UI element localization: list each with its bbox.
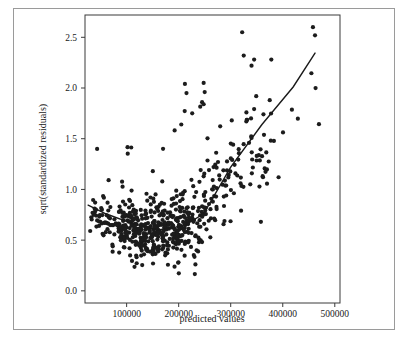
data-point	[155, 207, 159, 211]
data-point	[183, 242, 187, 246]
data-point	[215, 207, 219, 211]
data-point	[192, 195, 196, 199]
data-point	[263, 170, 267, 174]
data-point	[134, 255, 138, 259]
data-point	[317, 122, 321, 126]
data-point	[125, 236, 129, 240]
data-point	[140, 263, 144, 267]
data-point	[129, 188, 133, 192]
data-point	[170, 197, 174, 201]
y-tick-label: 2.5	[65, 33, 77, 43]
data-point	[184, 91, 188, 95]
data-point	[178, 205, 182, 209]
data-point	[262, 133, 266, 137]
data-point	[120, 180, 124, 184]
data-point	[130, 240, 134, 244]
data-point	[140, 213, 144, 217]
data-point	[198, 225, 202, 229]
data-point	[172, 231, 176, 235]
data-point	[127, 205, 131, 209]
data-point	[140, 228, 144, 232]
data-point	[191, 184, 195, 188]
data-point	[211, 178, 215, 182]
data-point	[139, 253, 143, 257]
data-point	[195, 221, 199, 225]
data-point	[186, 231, 190, 235]
data-point	[313, 86, 317, 90]
data-point	[98, 213, 102, 217]
data-point	[188, 216, 192, 220]
data-point	[111, 250, 115, 254]
data-point	[217, 173, 221, 177]
data-point	[239, 184, 243, 188]
y-tick-label: 1.5	[65, 134, 77, 144]
data-point	[117, 250, 121, 254]
data-point	[90, 217, 94, 221]
data-point	[255, 154, 259, 158]
data-point	[218, 177, 222, 181]
x-tick-label: 500000	[321, 309, 350, 319]
data-point	[183, 82, 187, 86]
data-point	[176, 239, 180, 243]
data-point	[142, 231, 146, 235]
data-point	[143, 208, 147, 212]
data-point	[95, 147, 99, 151]
data-point	[140, 248, 144, 252]
data-point	[112, 232, 116, 236]
y-tick-label: 0.5	[65, 236, 77, 246]
data-point	[174, 218, 178, 222]
data-point	[224, 193, 228, 197]
data-point	[163, 253, 167, 257]
data-point	[194, 190, 198, 194]
data-point	[230, 118, 234, 122]
x-axis-title: predicted values	[179, 313, 244, 324]
data-point	[198, 105, 202, 109]
data-point	[195, 248, 199, 252]
data-point	[237, 147, 241, 151]
data-point	[197, 180, 201, 184]
data-point	[168, 237, 172, 241]
data-point	[122, 245, 126, 249]
data-point	[182, 228, 186, 232]
data-point	[193, 262, 197, 266]
data-point	[249, 116, 253, 120]
data-point	[117, 204, 121, 208]
data-point	[265, 182, 269, 186]
data-point	[309, 71, 313, 75]
data-point	[88, 229, 92, 233]
data-point	[290, 108, 294, 112]
x-tick-label: 400000	[269, 309, 298, 319]
data-point	[144, 192, 148, 196]
data-point	[203, 199, 207, 203]
data-point	[126, 152, 130, 156]
data-point	[221, 168, 225, 172]
data-point	[167, 244, 171, 248]
data-point	[202, 102, 206, 106]
data-point	[139, 208, 143, 212]
data-point	[178, 209, 182, 213]
data-point	[178, 199, 182, 203]
data-point	[199, 168, 203, 172]
data-point	[269, 58, 273, 62]
data-point	[179, 248, 183, 252]
data-point	[258, 158, 262, 162]
data-point	[261, 112, 265, 116]
data-point	[272, 139, 276, 143]
data-point	[160, 236, 164, 240]
data-point	[212, 184, 216, 188]
data-point	[180, 234, 184, 238]
data-point	[170, 222, 174, 226]
data-point	[150, 214, 154, 218]
data-point	[259, 220, 263, 224]
data-point	[222, 204, 226, 208]
data-point	[207, 168, 211, 172]
data-point	[222, 219, 226, 223]
data-point	[130, 259, 134, 263]
data-point	[160, 222, 164, 226]
data-point	[197, 238, 201, 242]
data-point	[129, 145, 133, 149]
data-point	[150, 249, 154, 253]
data-point	[242, 142, 246, 146]
data-point	[208, 207, 212, 211]
data-point	[203, 90, 207, 94]
